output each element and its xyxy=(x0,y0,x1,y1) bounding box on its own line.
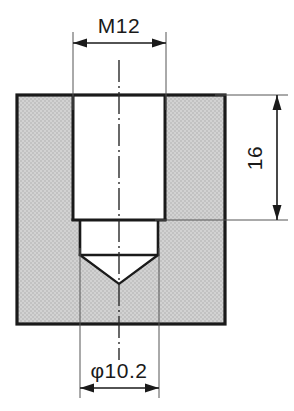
arrowhead-left-icon xyxy=(80,384,94,393)
arrowhead-left-icon xyxy=(73,39,87,48)
cross-section-drawing: M12 16 φ10.2 xyxy=(0,0,294,411)
dimension-depth-16: 16 xyxy=(243,95,282,220)
arrowhead-down-icon xyxy=(273,205,282,220)
dimension-label-16: 16 xyxy=(243,146,266,170)
dimension-m12: M12 xyxy=(73,14,166,48)
arrowhead-right-icon xyxy=(145,384,159,393)
dimension-pilot-diameter: φ10.2 xyxy=(80,359,159,393)
dimension-label-phi10-2: φ10.2 xyxy=(91,359,148,382)
section-material-fill xyxy=(17,95,225,324)
technical-drawing-canvas: M12 16 φ10.2 xyxy=(0,0,294,411)
dimension-label-m12: M12 xyxy=(98,14,140,37)
arrowhead-up-icon xyxy=(273,95,282,110)
arrowhead-right-icon xyxy=(152,39,166,48)
